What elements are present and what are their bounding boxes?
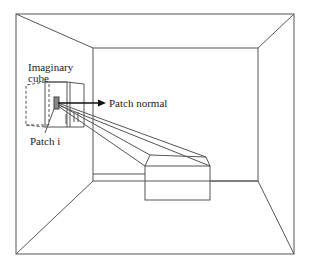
patch-i-label: Patch i bbox=[30, 135, 60, 147]
room-back-wall bbox=[93, 48, 258, 181]
imaginary-cube-label-line2: cube bbox=[28, 72, 49, 84]
room-outer-frame bbox=[16, 14, 294, 254]
edge-bottom-right bbox=[258, 181, 294, 254]
edge-bottom-left bbox=[16, 181, 93, 254]
edge-top-left bbox=[16, 14, 93, 48]
diagram-canvas: Imaginary cube Patch normal Patch i bbox=[0, 0, 310, 270]
floor-box bbox=[93, 155, 258, 200]
patch-i-leader bbox=[45, 109, 54, 133]
patch-normal-label: Patch normal bbox=[109, 97, 167, 109]
projection-rays bbox=[58, 103, 210, 166]
edge-top-right bbox=[258, 14, 294, 48]
